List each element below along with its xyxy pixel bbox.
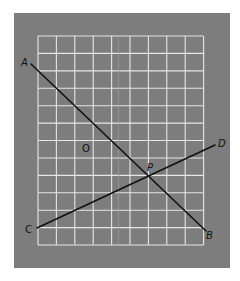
point-label-c: C xyxy=(25,224,32,235)
point-label-o: O xyxy=(82,143,90,154)
point-label-d: D xyxy=(218,138,226,149)
geometry-diagram: ABCDOP xyxy=(0,0,240,281)
point-label-p: P xyxy=(147,162,154,173)
point-label-a: A xyxy=(20,57,28,68)
point-label-b: B xyxy=(206,230,213,241)
